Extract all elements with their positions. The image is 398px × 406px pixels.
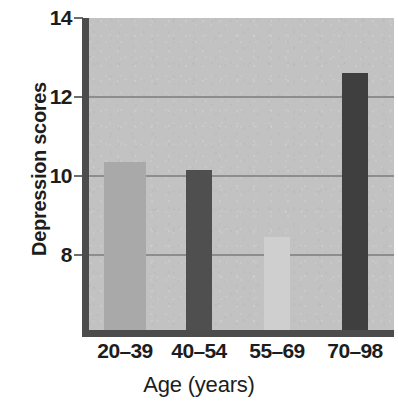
bar-70–98 — [342, 73, 368, 334]
depression-scores-bar-chart: Depression scores 14 12 10 8 20–3940–545… — [0, 0, 398, 406]
plot-area — [82, 18, 394, 334]
x-tick-label-2: 55–69 — [232, 340, 322, 361]
y-tick-label-10: 10 — [28, 165, 72, 186]
bar-55–69 — [264, 237, 290, 334]
y-axis-tick-labels: 14 12 10 8 — [28, 0, 72, 406]
x-axis-spine — [82, 330, 394, 337]
y-tick-label-12: 12 — [28, 86, 72, 107]
y-axis-spine — [82, 18, 89, 337]
bar-40–54 — [186, 170, 212, 334]
y-tick-label-14: 14 — [28, 7, 72, 28]
x-axis-title: Age (years) — [0, 372, 398, 398]
x-tick-label-1: 40–54 — [154, 340, 244, 361]
x-axis-tick-labels: 20–3940–5455–6970–98 — [82, 340, 394, 368]
y-tick-label-8: 8 — [28, 244, 72, 265]
bar-20–39 — [104, 162, 146, 334]
x-tick-label-3: 70–98 — [310, 340, 398, 361]
